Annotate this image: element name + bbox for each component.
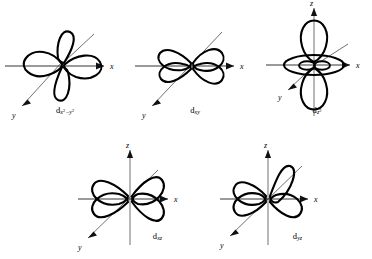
orbital-svg-dz2: z x y (262, 0, 372, 123)
x-axis-arrowhead (160, 196, 168, 203)
z-axis-label: z (125, 141, 130, 150)
x-axis-arrowhead (300, 196, 308, 203)
orbital-label-sub-mid: −y (65, 109, 72, 115)
z-axis-arrowhead (265, 150, 271, 158)
orbital-diagram-dz2: z x y dz2 (262, 0, 372, 123)
orbital-label-dz2: dz2 (262, 106, 372, 115)
orbital-label-sub-exp1: 2 (319, 108, 321, 113)
x-axis-label: x (173, 195, 178, 204)
y-axis-label: y (77, 243, 82, 252)
orbital-label-subscript: x2−y2 (60, 109, 74, 115)
x-axis-label: x (313, 195, 318, 204)
orbital-label-dyz: dyz (218, 232, 365, 241)
lobe-plus-y (58, 31, 74, 63)
lobe-lower-right (270, 194, 302, 217)
orbital-label-subscript: xz (157, 235, 162, 241)
z-axis-arrowhead (127, 150, 133, 158)
orbital-label-sub-main: xz (157, 235, 162, 241)
orbital-diagram-dxz: z x y dxz (72, 140, 207, 258)
orbital-label-dx2-y2: dx2−y2 (0, 106, 130, 115)
orbital-label-subscript: xy (195, 109, 200, 115)
x-axis-label: x (355, 61, 360, 70)
orbital-diagram-dyz: z x y dyz (218, 140, 353, 258)
orbital-label-sub-main: xy (195, 109, 200, 115)
orbital-label-sub-exp2: 2 (72, 108, 74, 113)
orbital-label-dxy: dxy (130, 106, 260, 115)
y-axis-label: y (219, 241, 224, 250)
lobe-minus-x (24, 52, 62, 76)
y-axis-label: y (277, 93, 282, 102)
equatorial-torus-inner-left (299, 61, 315, 69)
x-axis-arrowhead (226, 63, 234, 70)
z-axis-label: z (309, 0, 314, 8)
y-axis-arrowhead (288, 84, 297, 90)
orbital-label-subscript: yz (297, 235, 302, 241)
x-axis-label: x (109, 62, 114, 71)
orbital-diagram-dx2-y2: x y dx2−y2 (0, 18, 130, 123)
x-axis-label: x (239, 62, 244, 71)
orbital-label-subscript: z2 (317, 109, 322, 115)
orbital-label-dxz: dxz (72, 232, 225, 241)
orbital-label-sub-main: yz (297, 235, 302, 241)
z-axis-label: z (263, 141, 268, 150)
orbital-diagram-dxy: x y dxy (130, 18, 260, 123)
orbital-pointer-line (64, 34, 94, 62)
equatorial-torus-inner-right (314, 61, 330, 69)
d-orbital-figure: x y dx2−y2 x y (0, 0, 372, 259)
z-axis-arrowhead (311, 8, 317, 16)
